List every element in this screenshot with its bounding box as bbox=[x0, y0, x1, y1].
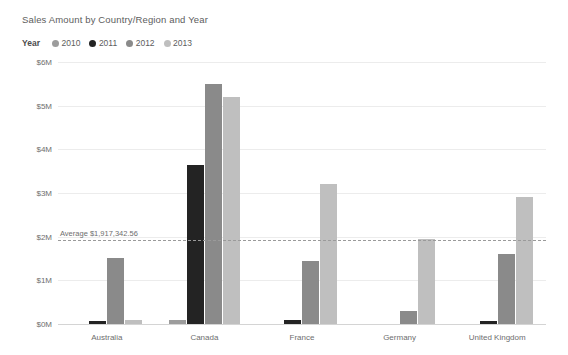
bar-australia-2013[interactable] bbox=[125, 320, 142, 324]
bar-france-2011[interactable] bbox=[284, 320, 301, 324]
gridline: $0M bbox=[58, 324, 546, 325]
legend-swatch-2011 bbox=[89, 40, 96, 47]
bar-group: Canada bbox=[156, 62, 254, 324]
x-axis-tick-label: France bbox=[290, 333, 315, 342]
bars bbox=[58, 62, 156, 324]
bar-france-2013[interactable] bbox=[320, 184, 337, 324]
bar-canada-2010[interactable] bbox=[169, 320, 186, 324]
y-axis-tick-label: $4M bbox=[36, 145, 52, 154]
bar-canada-2011[interactable] bbox=[187, 165, 204, 324]
chart-title: Sales Amount by Country/Region and Year bbox=[22, 14, 208, 25]
bars bbox=[156, 62, 254, 324]
bar-united-kingdom-2011[interactable] bbox=[480, 321, 497, 324]
x-axis-tick-label: Canada bbox=[190, 333, 218, 342]
bar-group: Australia bbox=[58, 62, 156, 324]
y-axis-tick-label: $2M bbox=[36, 232, 52, 241]
bars bbox=[253, 62, 351, 324]
legend-item-2010[interactable]: 2010 bbox=[52, 38, 80, 48]
chart-card: Sales Amount by Country/Region and Year … bbox=[0, 0, 568, 355]
y-axis-tick-label: $1M bbox=[36, 276, 52, 285]
bar-canada-2012[interactable] bbox=[205, 84, 222, 324]
y-axis-tick-label: $6M bbox=[36, 58, 52, 67]
bar-australia-2012[interactable] bbox=[107, 258, 124, 324]
legend-item-2013[interactable]: 2013 bbox=[164, 38, 192, 48]
bar-canada-2013[interactable] bbox=[223, 97, 240, 324]
bar-france-2012[interactable] bbox=[302, 261, 319, 324]
legend-swatch-2013 bbox=[164, 40, 171, 47]
legend-label-2011: 2011 bbox=[99, 38, 117, 48]
average-reference-line: Average $1,917,342.56 bbox=[58, 240, 546, 241]
legend-label-2013: 2013 bbox=[173, 38, 192, 48]
legend-label-2010: 2010 bbox=[61, 38, 80, 48]
y-axis-tick-label: $5M bbox=[36, 101, 52, 110]
x-axis-tick-label: United Kingdom bbox=[469, 333, 526, 342]
bars bbox=[448, 62, 546, 324]
bar-united-kingdom-2012[interactable] bbox=[498, 254, 515, 324]
legend-item-2011[interactable]: 2011 bbox=[89, 38, 117, 48]
legend-title: Year bbox=[22, 38, 40, 48]
plot-area: $0M$1M$2M$3M$4M$5M$6M AustraliaCanadaFra… bbox=[58, 62, 546, 324]
bar-group: Germany bbox=[351, 62, 449, 324]
bar-united-kingdom-2013[interactable] bbox=[516, 197, 533, 324]
y-axis-tick-label: $0M bbox=[36, 320, 52, 329]
bar-group: United Kingdom bbox=[448, 62, 546, 324]
bar-group: France bbox=[253, 62, 351, 324]
legend-swatch-2010 bbox=[52, 40, 59, 47]
average-reference-label: Average $1,917,342.56 bbox=[60, 229, 138, 238]
y-axis-tick-label: $3M bbox=[36, 189, 52, 198]
legend-item-2012[interactable]: 2012 bbox=[126, 38, 154, 48]
legend-swatch-2012 bbox=[126, 40, 133, 47]
bars bbox=[351, 62, 449, 324]
x-axis-tick-label: Germany bbox=[383, 333, 416, 342]
legend-label-2012: 2012 bbox=[136, 38, 155, 48]
x-axis-tick-label: Australia bbox=[91, 333, 122, 342]
bar-australia-2011[interactable] bbox=[89, 321, 106, 324]
chart-legend: Year 2010 2011 2012 2013 bbox=[22, 38, 201, 48]
bar-germany-2013[interactable] bbox=[418, 239, 435, 324]
bar-germany-2012[interactable] bbox=[400, 311, 417, 324]
